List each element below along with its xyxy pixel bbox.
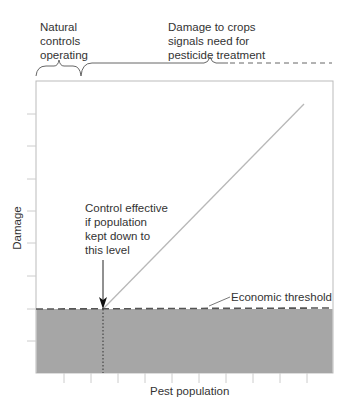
y-axis-label: Damage: [11, 203, 23, 253]
damage-signals-bracket: [81, 57, 228, 76]
shaded-region: [37, 309, 333, 373]
x-axis-label: Pest population: [150, 384, 229, 398]
annotation-line: this level: [85, 243, 168, 257]
control-effective-annotation: Control effective if population kept dow…: [85, 201, 168, 257]
chart-canvas: [0, 0, 350, 404]
economic-threshold-label: Economic threshold: [231, 290, 332, 304]
annotation-line: Control effective: [85, 201, 168, 215]
x-axis-ticks: [64, 373, 307, 383]
y-axis-ticks: [27, 114, 36, 341]
natural-controls-bracket: [36, 60, 81, 76]
annotation-line: if population: [85, 215, 168, 229]
annotation-line: kept down to: [85, 229, 168, 243]
